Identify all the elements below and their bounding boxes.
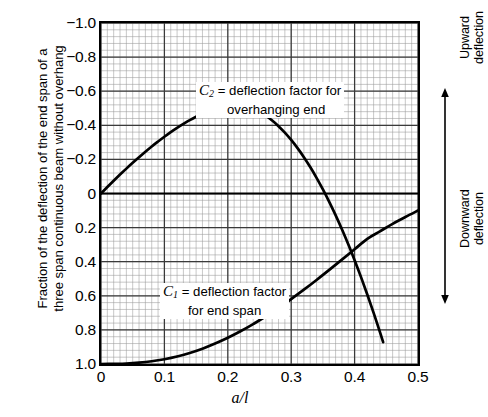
c1-symbol: C [163, 283, 173, 299]
downward-deflection-text: Downward deflection [458, 189, 486, 248]
downward-note-line1: Downward [458, 189, 472, 248]
upward-deflection-text: Upward deflection [458, 11, 486, 64]
downward-deflection-note: Downward deflection [458, 248, 488, 276]
c2-label-text-line2: overhanging end [199, 102, 341, 118]
x-axis-title-l: l [244, 389, 248, 406]
x-tick-label: 0.3 [266, 369, 316, 385]
c1-subscript: 1 [173, 289, 178, 300]
c2-symbol: C [199, 82, 209, 98]
y-axis-title-line1: Fraction of the deflection of the end sp… [35, 0, 51, 359]
upward-note-line1: Upward [458, 11, 472, 64]
x-axis-title: a/l [0, 389, 480, 407]
x-tick-label: 0.4 [330, 369, 380, 385]
x-tick-label: 0.2 [203, 369, 253, 385]
c1-label-text-line2: for end span [163, 303, 286, 319]
c2-curve-label: C2 = deflection factor for overhanging e… [196, 82, 344, 118]
x-tick-label: 0 [76, 369, 126, 385]
x-axis-title-a: a [232, 389, 240, 406]
c2-label-text: = deflection factor for [218, 83, 342, 98]
x-axis-ticks: 00.10.20.30.40.5 [0, 369, 480, 391]
x-axis-title-text: a/l [232, 389, 249, 406]
c1-label-text: = deflection factor [182, 284, 286, 299]
downward-note-line2: deflection [472, 189, 486, 248]
y-axis-title-line2: three span continuous beam without overh… [50, 0, 66, 359]
x-tick-label: 0.1 [139, 369, 189, 385]
x-tick-label: 0.5 [393, 369, 443, 385]
upward-arrow-icon [440, 88, 450, 196]
c1-curve-label: C1 = deflection factor for end span [160, 283, 289, 319]
y-axis-title: Fraction of the deflection of the end sp… [35, 0, 66, 359]
downward-arrow-icon [440, 196, 450, 304]
upward-deflection-note: Upward deflection [458, 64, 488, 92]
c2-subscript: 2 [209, 88, 214, 99]
upward-note-line2: deflection [472, 11, 486, 64]
